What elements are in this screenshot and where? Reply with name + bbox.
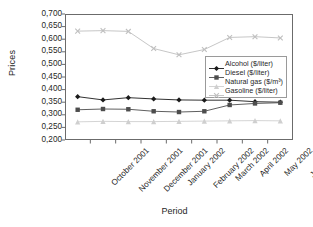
y-axis-title: Prices <box>7 23 17 103</box>
legend-item[interactable]: Gasoline ($/liter) <box>208 86 283 95</box>
y-tick-label: 0,700 <box>32 10 62 18</box>
y-tick-label: 0,450 <box>32 73 62 81</box>
chart-figure: Prices Period 0,7000,6500,6000,5500,5000… <box>0 0 313 227</box>
y-tick-label: 0,300 <box>32 110 62 118</box>
y-tick-label: 0,500 <box>32 60 62 68</box>
legend-label: Natural gas ($/m³) <box>225 77 283 86</box>
legend-item[interactable]: Diesel ($/liter) <box>208 68 283 77</box>
y-tick-label: 0,350 <box>32 98 62 106</box>
legend-marker-icon <box>208 77 225 86</box>
legend-label: Alcohol ($/liter) <box>225 59 273 68</box>
legend-label: Diesel ($/liter) <box>225 68 269 77</box>
y-tick-label: 0,200 <box>32 136 62 144</box>
y-tick-label: 0,400 <box>32 85 62 93</box>
legend-marker-icon <box>208 59 225 68</box>
legend-item[interactable]: Natural gas ($/m³) <box>208 77 283 86</box>
legend-marker-icon <box>208 86 225 95</box>
y-axis-tick-labels: 0,7000,6500,6000,5500,5000,4500,4000,350… <box>28 0 62 227</box>
y-tick-label: 0,600 <box>32 35 62 43</box>
y-tick-label: 0,250 <box>32 123 62 131</box>
legend-item[interactable]: Alcohol ($/liter) <box>208 59 283 68</box>
legend-marker-icon <box>208 68 225 77</box>
y-tick-label: 0,650 <box>32 22 62 30</box>
chart-legend: Alcohol ($/liter)Diesel ($/liter)Natural… <box>205 56 287 98</box>
legend-label: Gasoline ($/liter) <box>225 86 278 95</box>
y-tick-label: 0,550 <box>32 47 62 55</box>
